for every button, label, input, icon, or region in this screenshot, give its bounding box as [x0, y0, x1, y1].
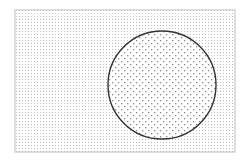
diagram-canvas [0, 0, 251, 161]
venn-diagram [0, 0, 251, 161]
subset-circle [108, 31, 216, 139]
